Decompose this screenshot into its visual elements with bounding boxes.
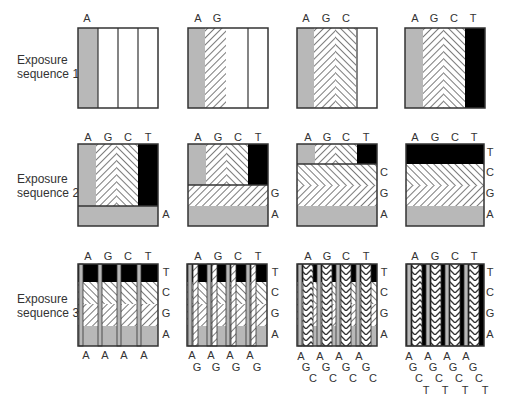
side-label: A <box>269 328 281 340</box>
top-label: T <box>252 250 264 262</box>
side-label: A <box>484 328 496 340</box>
top-label: C <box>449 250 461 262</box>
bottom-label: T <box>459 384 471 396</box>
bottom-label: T <box>420 384 432 396</box>
bottom-label: G <box>191 361 203 373</box>
row-label-line2: sequence 3 <box>17 306 79 320</box>
bottom-label: A <box>138 349 150 361</box>
side-label: C <box>484 166 496 178</box>
side-label: G <box>484 307 496 319</box>
top-label: T <box>142 131 154 143</box>
exposure-panel-2-1 <box>77 143 159 227</box>
top-label: G <box>321 250 333 262</box>
row-label-line1: Exposure <box>17 172 79 186</box>
top-label: C <box>340 12 352 24</box>
top-label: A <box>409 131 421 143</box>
bottom-label: C <box>347 372 359 384</box>
top-label: C <box>340 250 352 262</box>
top-label: A <box>409 12 421 24</box>
bottom-label: A <box>80 349 92 361</box>
side-label: G <box>269 307 281 319</box>
exposure-panel-1-3 <box>296 27 378 109</box>
top-label: A <box>192 12 204 24</box>
row-label-line1: Exposure <box>17 292 79 306</box>
bottom-label: A <box>224 349 236 361</box>
bottom-label: T <box>439 384 451 396</box>
side-label: G <box>378 307 390 319</box>
side-label: A <box>378 328 390 340</box>
bottom-label: G <box>210 361 222 373</box>
bottom-label: C <box>473 372 485 384</box>
top-label: A <box>409 250 421 262</box>
side-label: A <box>269 208 281 220</box>
bottom-label: G <box>230 361 242 373</box>
row-label-line1: Exposure <box>17 53 79 67</box>
exposure-panel-3-2 <box>186 263 268 347</box>
top-label: C <box>340 131 352 143</box>
side-label: C <box>484 286 496 298</box>
top-label: T <box>360 250 372 262</box>
side-label: A <box>378 208 390 220</box>
top-label: T <box>468 250 480 262</box>
bottom-label: C <box>327 372 339 384</box>
top-label: G <box>320 12 332 24</box>
row-label-sequence-1: Exposure sequence 1 <box>17 53 79 81</box>
top-label: T <box>360 131 372 143</box>
top-label: C <box>449 131 461 143</box>
exposure-panel-2-2 <box>187 143 269 227</box>
exposure-panel-3-1 <box>77 263 159 347</box>
top-label: C <box>448 12 460 24</box>
top-label: C <box>122 250 134 262</box>
side-label: T <box>269 266 281 278</box>
top-label: C <box>232 131 244 143</box>
row-label-sequence-2: Exposure sequence 2 <box>17 172 79 200</box>
side-label: C <box>269 286 281 298</box>
top-label: A <box>192 250 204 262</box>
side-label: T <box>484 266 496 278</box>
side-label: A <box>160 208 172 220</box>
side-label: G <box>269 187 281 199</box>
exposure-panel-3-4 <box>405 263 485 347</box>
side-label: C <box>160 286 172 298</box>
exposure-panel-2-4 <box>405 143 485 227</box>
side-label: T <box>484 146 496 158</box>
top-label: G <box>321 131 333 143</box>
top-label: A <box>302 131 314 143</box>
bottom-label: C <box>433 372 445 384</box>
top-label: G <box>212 250 224 262</box>
top-label: C <box>232 250 244 262</box>
top-label: G <box>428 12 440 24</box>
side-label: T <box>378 266 390 278</box>
side-label: C <box>378 166 390 178</box>
side-label: A <box>484 208 496 220</box>
top-label: A <box>300 12 312 24</box>
bottom-label: C <box>307 372 319 384</box>
bottom-label: A <box>244 349 256 361</box>
bottom-label: A <box>118 349 130 361</box>
exposure-panel-1-4 <box>404 27 486 109</box>
top-label: G <box>212 131 224 143</box>
row-label-line2: sequence 2 <box>17 186 79 200</box>
side-label: T <box>160 266 172 278</box>
top-label: T <box>467 12 479 24</box>
top-label: G <box>102 250 114 262</box>
exposure-panel-3-3 <box>296 263 378 347</box>
top-label: A <box>192 131 204 143</box>
bottom-label: G <box>251 361 263 373</box>
exposure-panel-1-2 <box>187 27 269 109</box>
bottom-label: A <box>186 349 198 361</box>
bottom-label: C <box>367 372 379 384</box>
top-label: G <box>429 250 441 262</box>
top-label: A <box>82 250 94 262</box>
top-label: A <box>81 12 93 24</box>
top-label: G <box>429 131 441 143</box>
bottom-label: A <box>99 349 111 361</box>
top-label: T <box>252 131 264 143</box>
top-label: A <box>302 250 314 262</box>
side-label: G <box>160 307 172 319</box>
side-label: C <box>378 286 390 298</box>
top-label: T <box>142 250 154 262</box>
top-label: A <box>82 131 94 143</box>
row-label-line2: sequence 1 <box>17 67 79 81</box>
top-label: G <box>211 12 223 24</box>
